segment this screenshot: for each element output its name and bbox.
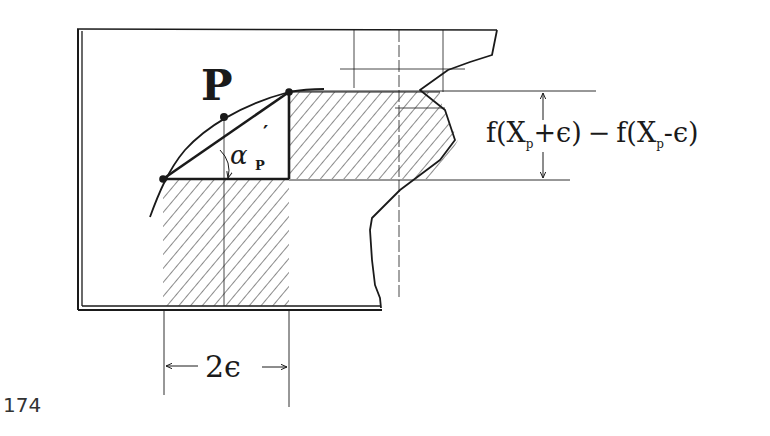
width-dimension: 2ϵ	[164, 310, 289, 407]
point-right	[285, 88, 293, 96]
page-number: 174	[3, 393, 41, 417]
point-p-label: P	[201, 61, 233, 110]
angle-prime: ′	[263, 121, 268, 145]
svg-text:f(Xp+ϵ)−f(Xp-ϵ): f(Xp+ϵ)−f(Xp-ϵ)	[486, 117, 699, 151]
hatched-height-region	[289, 92, 459, 179]
derivative-secant-diagram: P α P ′ f(Xp+ϵ)−f(Xp-ϵ) 2ϵ 174	[0, 0, 770, 436]
point-p	[220, 113, 228, 121]
point-left	[159, 175, 167, 183]
angle-subscript: P	[255, 158, 265, 173]
hatched-width-region	[163, 117, 289, 306]
angle-label: α	[230, 140, 248, 170]
width-label: 2ϵ	[205, 349, 241, 384]
height-label: f(Xp+ϵ)−f(Xp-ϵ)	[486, 117, 699, 151]
angle-arc	[220, 150, 229, 178]
